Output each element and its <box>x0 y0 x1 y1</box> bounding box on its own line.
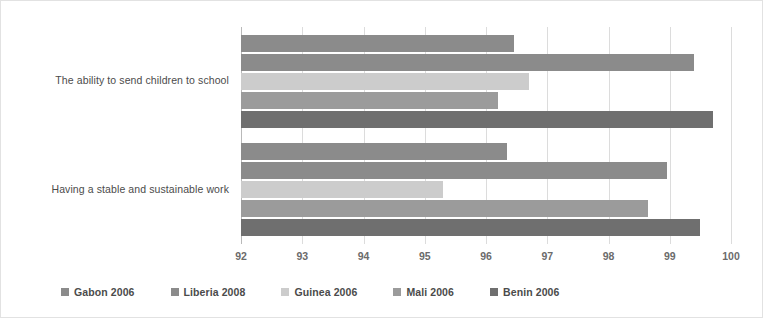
bar-row <box>241 219 731 236</box>
legend-item[interactable]: Gabon 2006 <box>61 286 135 298</box>
plot-area <box>241 27 731 244</box>
category-label: Having a stable and sustainable work <box>4 183 229 195</box>
x-tick-label: 92 <box>235 250 247 262</box>
bar[interactable] <box>241 200 648 217</box>
legend-swatch-icon <box>393 288 401 296</box>
x-axis-tick-labels: 9293949596979899100 <box>241 250 731 266</box>
legend-label: Benin 2006 <box>503 286 559 298</box>
x-tick-label: 99 <box>664 250 676 262</box>
legend-label: Liberia 2008 <box>184 286 246 298</box>
bar[interactable] <box>241 54 694 71</box>
bar-group <box>241 136 731 245</box>
bar-row <box>241 92 731 109</box>
bar[interactable] <box>241 162 667 179</box>
legend-item[interactable]: Guinea 2006 <box>281 286 357 298</box>
legend-swatch-icon <box>281 288 289 296</box>
x-tick-label: 97 <box>541 250 553 262</box>
x-tick-label: 94 <box>358 250 370 262</box>
legend-label: Mali 2006 <box>406 286 454 298</box>
legend-item[interactable]: Benin 2006 <box>490 286 559 298</box>
bar[interactable] <box>241 143 507 160</box>
bar-group <box>241 27 731 136</box>
bar-row <box>241 143 731 160</box>
legend-label: Gabon 2006 <box>74 286 135 298</box>
x-tick-label: 100 <box>722 250 740 262</box>
bar[interactable] <box>241 73 529 90</box>
x-tick-label: 98 <box>603 250 615 262</box>
legend-label: Guinea 2006 <box>294 286 357 298</box>
legend-item[interactable]: Liberia 2008 <box>171 286 246 298</box>
legend-swatch-icon <box>61 288 69 296</box>
bar[interactable] <box>241 35 514 52</box>
bar-row <box>241 200 731 217</box>
bar[interactable] <box>241 111 713 128</box>
chart-legend: Gabon 2006Liberia 2008Guinea 2006Mali 20… <box>61 282 741 302</box>
bar[interactable] <box>241 219 700 236</box>
bar-row <box>241 54 731 71</box>
legend-item[interactable]: Mali 2006 <box>393 286 454 298</box>
gridline <box>731 27 732 244</box>
x-tick-label: 96 <box>480 250 492 262</box>
bar-chart-figure: 9293949596979899100 Gabon 2006Liberia 20… <box>0 0 763 318</box>
legend-swatch-icon <box>171 288 179 296</box>
bar-row <box>241 162 731 179</box>
category-label: The ability to send children to school <box>4 74 229 86</box>
legend-swatch-icon <box>490 288 498 296</box>
x-tick-label: 95 <box>419 250 431 262</box>
bar-row <box>241 35 731 52</box>
x-tick-label: 93 <box>296 250 308 262</box>
bar-row <box>241 111 731 128</box>
bar-row <box>241 181 731 198</box>
bar[interactable] <box>241 181 443 198</box>
bar-row <box>241 73 731 90</box>
bar[interactable] <box>241 92 498 109</box>
